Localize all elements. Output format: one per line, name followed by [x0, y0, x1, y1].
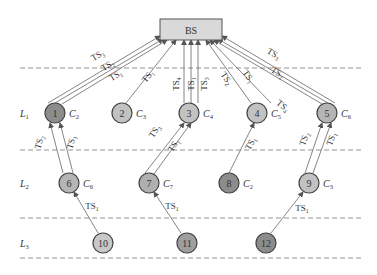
channel-label: C2	[69, 108, 79, 120]
channel-label: C3	[136, 108, 146, 120]
timeslot-label: TS1	[186, 77, 197, 91]
sensor-node-12: 12	[256, 233, 276, 253]
sensor-node-8: 8C2	[219, 173, 253, 193]
network-diagram: TS3TS2TS1TS1TS4TS1TS3TS2TS4TS2TS3TS1TS2T…	[0, 0, 377, 275]
layer-label: L3	[19, 238, 29, 250]
timeslot-label: TS1	[324, 131, 339, 147]
channel-label: C2	[243, 178, 253, 190]
sensor-node-11: 11	[177, 233, 197, 253]
channel-label: C4	[203, 108, 214, 120]
timeslot-label: TS2	[33, 134, 47, 150]
link-arrow	[74, 192, 98, 233]
node-id: 5	[325, 108, 330, 119]
timeslot-label: TS1	[166, 137, 183, 154]
timeslot-label: TS1	[85, 201, 99, 212]
node-id: 8	[227, 178, 232, 189]
node-id: 4	[255, 108, 260, 119]
diagram-svg: TS3TS2TS1TS1TS4TS1TS3TS2TS4TS2TS3TS1TS2T…	[0, 0, 377, 275]
timeslot-label: TS2	[297, 131, 312, 147]
channel-label: C6	[341, 108, 352, 120]
link-arrow	[50, 123, 63, 173]
sensor-node-3: 3C4	[179, 103, 214, 123]
sensor-node-2: 2C3	[112, 103, 146, 123]
channel-label: C6	[83, 178, 94, 190]
base-station: BS	[160, 19, 222, 40]
node-id: 9	[307, 178, 312, 189]
timeslot-label: TS1	[65, 134, 79, 150]
channel-label: C7	[163, 178, 174, 190]
node-id: 10	[98, 238, 108, 249]
node-id: 2	[120, 108, 125, 119]
timeslot-label: TS1	[295, 203, 309, 214]
link-arrow	[210, 40, 271, 103]
sensor-node-6: 6C6	[59, 173, 94, 193]
timeslot-label: TS4	[171, 77, 182, 91]
channel-label: C3	[323, 178, 333, 190]
timeslot-label: TS1	[240, 68, 257, 85]
timeslot-label: TS3	[265, 46, 282, 62]
node-id: 7	[147, 178, 152, 189]
timeslot-label: TS2	[218, 70, 235, 87]
link-arrow	[305, 123, 322, 173]
links: TS3TS2TS1TS1TS4TS1TS3TS2TS4TS2TS3TS1TS2T…	[33, 36, 340, 233]
sensor-node-7: 7C7	[139, 173, 174, 193]
sensor-node-10: 10	[93, 233, 113, 253]
node-id: 12	[261, 238, 271, 249]
layer-label: L1	[19, 108, 29, 120]
timeslot-label: TS3	[147, 123, 164, 140]
nodes: 1C22C33C44C55C66C67C78C29C3101112	[45, 103, 352, 253]
timeslot-label: TS3	[199, 77, 210, 91]
link-arrow	[154, 192, 181, 233]
sensor-node-1: 1C2	[45, 103, 79, 123]
timeslot-label: TS2	[269, 65, 286, 81]
node-id: 6	[67, 178, 72, 189]
sensor-node-5: 5C6	[317, 103, 352, 123]
layer-label: L2	[19, 178, 29, 190]
node-id: 11	[182, 238, 192, 249]
timeslot-label: TS1	[165, 201, 179, 212]
channel-label: C5	[271, 108, 281, 120]
base-station-label: BS	[185, 25, 197, 36]
sensor-node-9: 9C3	[299, 173, 333, 193]
node-id: 1	[53, 108, 58, 119]
layer-labels: L1L2L3	[19, 108, 29, 250]
node-id: 3	[187, 108, 192, 119]
link-arrow	[313, 123, 331, 173]
